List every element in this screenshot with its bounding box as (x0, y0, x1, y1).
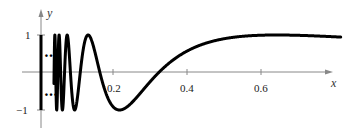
x-axis-label: x (330, 76, 337, 90)
x-tick-label-0.6: 0.6 (254, 82, 268, 94)
x-tick-label-0.4: 0.4 (180, 82, 194, 94)
y-axis-arrow-icon (39, 9, 44, 17)
y-tick-label-minus1: −1 (16, 104, 28, 116)
y-axis-label: y (46, 6, 53, 20)
x-tick-label-0.2: 0.2 (107, 82, 121, 94)
function-plot: 0.2 0.4 0.6 1 −1 x y … … (0, 0, 349, 136)
x-axis-arrow-icon (325, 70, 333, 75)
y-tick-label-1: 1 (25, 29, 31, 41)
